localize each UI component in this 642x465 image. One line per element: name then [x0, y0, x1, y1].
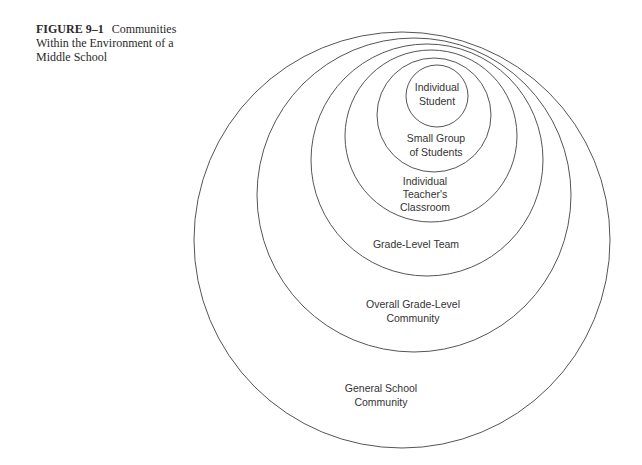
circle-individual-student: IndividualStudent [406, 65, 468, 127]
nested-communities-diagram: General SchoolCommunity Overall Grade-Le… [0, 0, 642, 465]
circle-small-group: Small Groupof Students [377, 58, 491, 172]
svg-text:Overall Grade-LevelCommunity: Overall Grade-LevelCommunity [366, 298, 460, 324]
svg-text:General SchoolCommunity: General SchoolCommunity [345, 382, 417, 408]
svg-text:IndividualStudent: IndividualStudent [415, 81, 459, 107]
svg-text:Small Groupof Students: Small Groupof Students [407, 132, 466, 158]
circle-grade-level-team: Grade-Level Team [311, 44, 543, 276]
svg-text:Grade-Level Team: Grade-Level Team [373, 238, 459, 250]
svg-text:IndividualTeacher'sClassroom: IndividualTeacher'sClassroom [400, 175, 450, 213]
